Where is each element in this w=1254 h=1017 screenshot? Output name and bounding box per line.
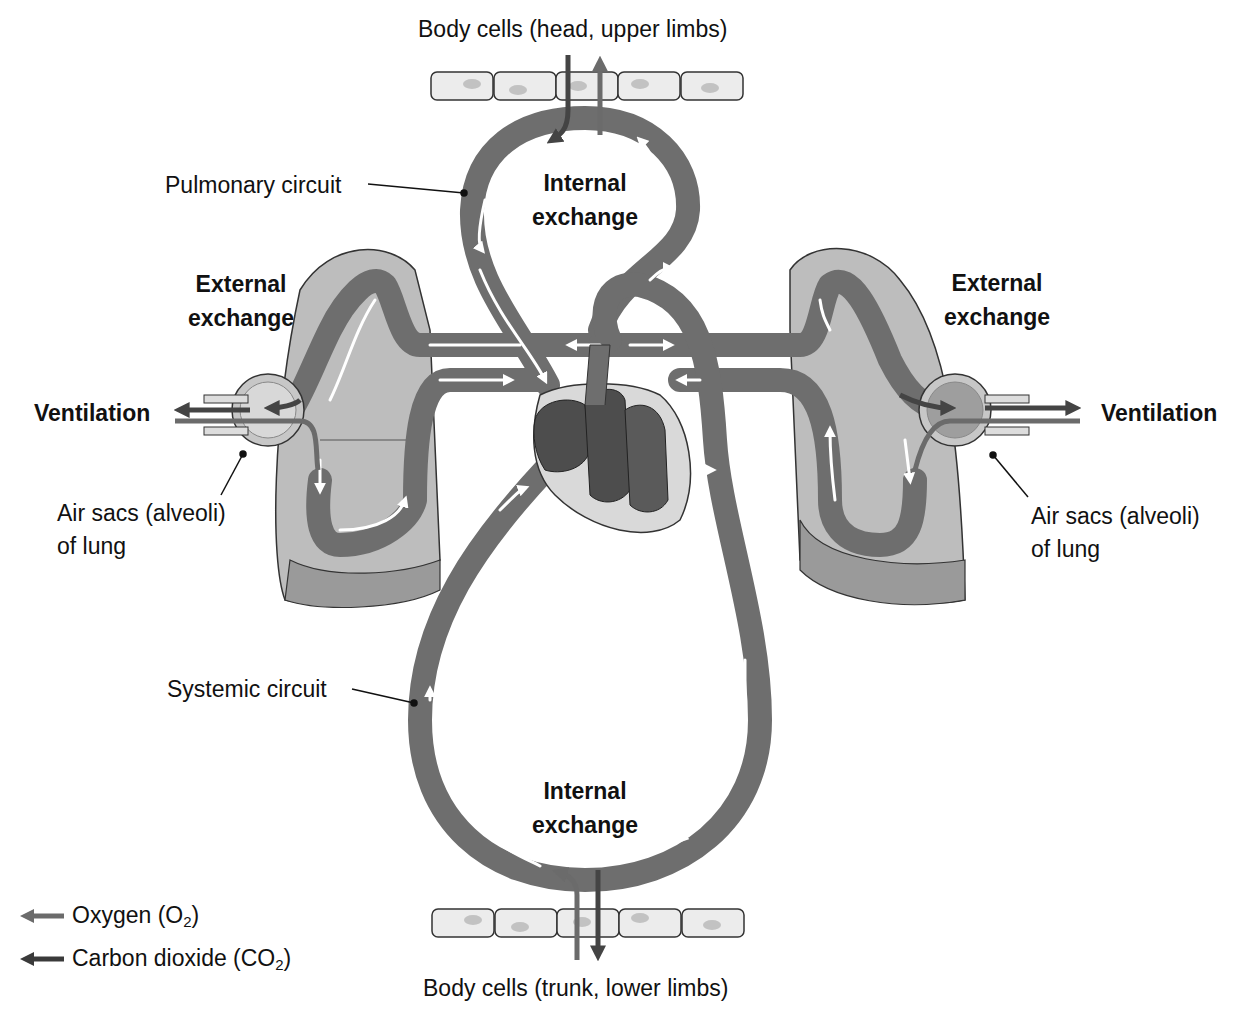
external-exchange-right-line2: exchange <box>932 304 1062 332</box>
body-cells-bottom-label: Body cells (trunk, lower limbs) <box>423 975 728 1003</box>
pulmonary-circuit-label: Pulmonary circuit <box>165 172 341 200</box>
ventilation-left-label: Ventilation <box>34 400 150 428</box>
air-sacs-right-label: Air sacs (alveoli) of lung <box>1031 503 1200 563</box>
external-exchange-left-line2: exchange <box>176 305 306 333</box>
systemic-circuit-label: Systemic circuit <box>167 676 327 704</box>
air-sacs-right-line2: of lung <box>1031 536 1200 564</box>
external-exchange-right-label: External exchange <box>932 270 1062 331</box>
arrow-left-icon <box>18 951 66 967</box>
legend-label-carbon-dioxide: Carbon dioxide (CO2) <box>72 945 291 973</box>
legend-item-carbon-dioxide: Carbon dioxide (CO2) <box>18 945 291 973</box>
legend-label-oxygen: Oxygen (O2) <box>72 902 199 930</box>
air-sacs-left-label: Air sacs (alveoli) of lung <box>57 500 226 560</box>
body-cells-top-label: Body cells (head, upper limbs) <box>418 16 727 44</box>
internal-exchange-bottom-label: Internal exchange <box>520 778 650 839</box>
air-sacs-left-line1: Air sacs (alveoli) <box>57 500 226 528</box>
body-cells-bottom <box>432 909 744 937</box>
external-exchange-left-line1: External <box>176 271 306 299</box>
body-cells-top <box>431 72 743 100</box>
air-sacs-left-line2: of lung <box>57 533 226 561</box>
internal-exchange-top-line2: exchange <box>520 204 650 232</box>
air-sacs-right-line1: Air sacs (alveoli) <box>1031 503 1200 531</box>
ventilation-right-label: Ventilation <box>1101 400 1217 428</box>
internal-exchange-bottom-line2: exchange <box>520 812 650 840</box>
circulation-diagram: Body cells (head, upper limbs) Body cell… <box>0 0 1254 1017</box>
internal-exchange-bottom-line1: Internal <box>520 778 650 806</box>
arrow-left-icon <box>18 908 66 924</box>
internal-exchange-top-line1: Internal <box>520 170 650 198</box>
external-exchange-left-label: External exchange <box>176 271 306 332</box>
internal-exchange-top-label: Internal exchange <box>520 170 650 231</box>
heart <box>534 345 691 532</box>
legend-item-oxygen: Oxygen (O2) <box>18 902 199 930</box>
external-exchange-right-line1: External <box>932 270 1062 298</box>
